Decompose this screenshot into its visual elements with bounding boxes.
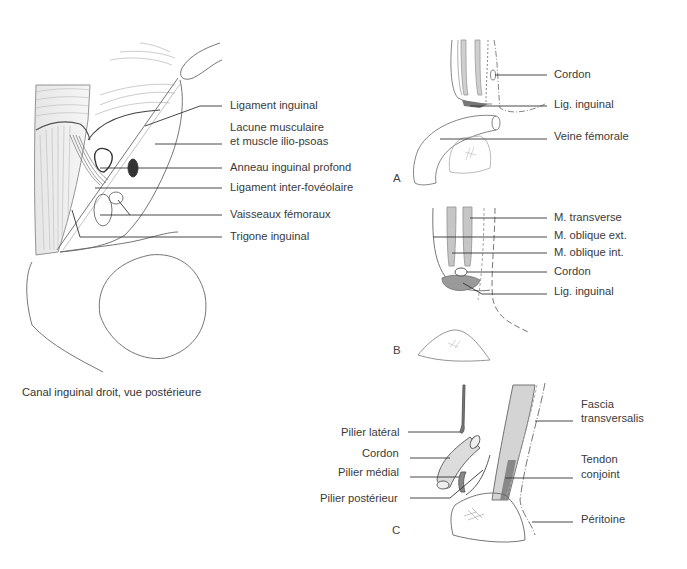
label-b-m-oblique-ext: M. oblique ext.: [554, 229, 627, 242]
label-b-m-transverse: M. transverse: [554, 211, 622, 224]
label-b-m-oblique-int: M. oblique int.: [554, 246, 624, 259]
label-b-cordon: Cordon: [554, 265, 591, 278]
transversus-arch: [88, 110, 160, 140]
label-a-lig-inguinal: Lig. inguinal: [554, 98, 614, 111]
pilier-medial-shape: [459, 472, 466, 492]
iliac-crest-outline: [181, 43, 222, 79]
main-leader-lines: [72, 106, 222, 237]
panel-c-letter: C: [392, 524, 400, 536]
label-ilio-psoas: et muscle ilio-psoas: [230, 135, 328, 148]
panel-a-leader-lines: [440, 75, 547, 139]
label-c-pilier-lateral: Pilier latéral: [341, 426, 399, 439]
panel-a-drawing: [413, 40, 545, 185]
panel-c-leader-lines: [408, 421, 573, 522]
panel-a-letter: A: [393, 172, 401, 184]
label-lacune-musculaire: Lacune musculaire: [230, 121, 324, 134]
label-a-cordon: Cordon: [554, 68, 591, 81]
femoral-vein-tube: [413, 115, 496, 185]
panel-b-drawing: [418, 207, 528, 361]
label-a-veine-femorale: Veine fémorale: [554, 130, 629, 143]
pilier-lateral-shape: [460, 385, 465, 433]
pubic-bone-c: [451, 493, 525, 542]
label-c-tendon: Tendon: [581, 453, 618, 466]
label-ligament-inter-foveolaire: Ligament inter-fovéolaire: [230, 181, 353, 194]
pelvic-bone: [27, 262, 103, 372]
cordon-b: [455, 268, 467, 276]
femoral-vein: [94, 194, 112, 226]
label-anneau-inguinal-profond: Anneau inguinal profond: [230, 161, 351, 174]
label-c-pilier-posterieur: Pilier postérieur: [320, 492, 398, 505]
deep-inguinal-ring: [95, 148, 113, 172]
label-c-transversalis: transversalis: [581, 412, 644, 425]
label-c-peritoine: Péritoine: [581, 513, 625, 526]
obturator-foramen: [99, 255, 206, 359]
panel-b-letter: B: [393, 344, 401, 356]
cordon-a: [491, 70, 496, 80]
label-c-fascia: Fascia: [581, 398, 614, 411]
muscle-shade: [463, 207, 472, 266]
muscle-shade: [447, 207, 456, 266]
label-b-lig-inguinal: Lig. inguinal: [554, 285, 614, 298]
figure-caption: Canal inguinal droit, vue postérieure: [22, 386, 201, 398]
ligament-shade: [442, 275, 480, 290]
label-c-pilier-medial: Pilier médial: [338, 466, 399, 479]
label-ligament-inguinal: Ligament inguinal: [230, 99, 318, 112]
label-c-conjoint: conjoint: [581, 468, 620, 481]
label-c-cordon: Cordon: [362, 447, 399, 460]
label-vaisseaux-femoraux: Vaisseaux fémoraux: [230, 208, 331, 221]
pubic-bone-a: [449, 136, 490, 173]
label-trigone-inguinal: Trigone inguinal: [230, 230, 309, 243]
panel-c-drawing: [437, 383, 545, 542]
tendon-band: [492, 385, 535, 500]
muscle-strip: [461, 40, 468, 95]
muscle-strip: [475, 40, 482, 95]
